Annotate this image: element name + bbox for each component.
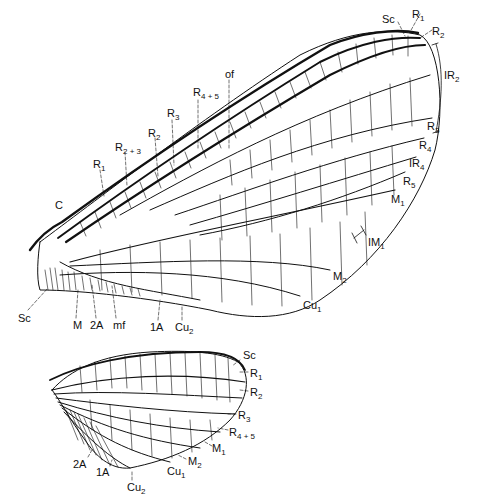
forewing-label-c: C bbox=[55, 200, 63, 211]
forewing-label-r3_tip: R3 bbox=[427, 121, 439, 135]
forewing-label-ir2: IR2 bbox=[444, 70, 459, 84]
forewing-label-cu2: Cu2 bbox=[175, 322, 194, 336]
hindwing-label-cu2: Cu2 bbox=[127, 482, 146, 496]
forewing-label-r2_base: R2 bbox=[148, 128, 160, 142]
hindwing-label-m2: M2 bbox=[188, 456, 202, 470]
forewing-label-1a: 1A bbox=[150, 322, 163, 333]
forewing-label-m: M bbox=[73, 320, 82, 331]
hindwing-label-r2: R2 bbox=[250, 387, 262, 401]
forewing-label-r1_base: R1 bbox=[93, 159, 105, 173]
forewing-label-cu1: Cu1 bbox=[303, 300, 322, 314]
forewing-label-r4plus5: R4 + 5 bbox=[193, 87, 219, 101]
forewing-label-of: of bbox=[225, 69, 234, 80]
forewing-label-ir4: IR4 bbox=[409, 158, 424, 172]
forewing-label-sc_base: Sc bbox=[18, 313, 31, 324]
forewing-label-r2_tip: R2 bbox=[432, 26, 444, 40]
forewing-label-im1: IM1 bbox=[368, 237, 385, 251]
hindwing-label-r1: R1 bbox=[250, 368, 262, 382]
hindwing-label-sc: Sc bbox=[243, 350, 256, 361]
hindwing-label-m1: M1 bbox=[212, 443, 226, 457]
forewing-label-m2: M2 bbox=[333, 271, 347, 285]
forewing-label-r3_base: R3 bbox=[167, 108, 179, 122]
forewing-label-m1: M1 bbox=[391, 194, 405, 208]
forewing-label-r4: R4 bbox=[419, 140, 431, 154]
forewing-label-r1_tip: R1 bbox=[412, 9, 424, 23]
forewing-label-mf: mf bbox=[113, 320, 125, 331]
forewing-label-r5: R5 bbox=[403, 176, 415, 190]
hindwing-label-2a: 2A bbox=[73, 459, 86, 470]
forewing-outline bbox=[38, 32, 440, 317]
hindwing-label-1a: 1A bbox=[96, 467, 109, 478]
forewing-label-2a: 2A bbox=[90, 320, 103, 331]
hindwing-label-r4plus5: R4 + 5 bbox=[229, 427, 255, 441]
forewing-label-sc: Sc bbox=[382, 14, 395, 25]
forewing-label-r2plus3: R2 + 3 bbox=[115, 142, 141, 156]
hindwing-label-cu1: Cu1 bbox=[167, 466, 186, 480]
hindwing-label-r3: R3 bbox=[238, 410, 250, 424]
